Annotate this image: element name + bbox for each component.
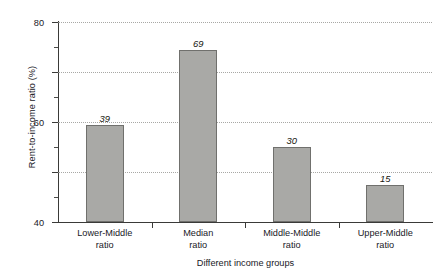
x-category-label-line2: ratio (339, 240, 433, 252)
y-axis-title: Rent-to-income ratio (%) (27, 22, 37, 212)
bar: 30 (273, 147, 311, 222)
bar-value-label: 15 (380, 173, 390, 184)
y-tick-20: 20 (52, 172, 58, 173)
x-category-label-line1: Middle-Middle (263, 228, 320, 238)
y-tick-label-60: 60 (34, 118, 44, 128)
x-category-label-line1: Upper-Middle (358, 228, 413, 238)
x-category-label-line1: Median (183, 228, 213, 238)
y-minor-tick-70 (54, 47, 58, 48)
bar: 69 (179, 50, 217, 223)
bar-value-label: 39 (100, 113, 110, 124)
gridline-y-60 (58, 72, 432, 73)
bar-value-label: 30 (287, 135, 297, 146)
y-tick-label-80: 80 (34, 18, 44, 28)
bar: 15 (366, 185, 404, 223)
y-tick-80: 80 (52, 22, 58, 23)
x-category-label: Medianratio (152, 228, 246, 251)
x-category-label-line2: ratio (245, 240, 339, 252)
x-category-label: Lower-Middleratio (58, 228, 152, 251)
x-axis-title: Different income groups (58, 258, 433, 268)
x-category-label-line2: ratio (58, 240, 152, 252)
y-tick-0: 0 (52, 222, 58, 223)
y-tick-40: 40 (52, 122, 58, 123)
x-category-label-line1: Lower-Middle (77, 228, 132, 238)
x-category-label: Upper-Middleratio (339, 228, 433, 251)
x-category-label: Middle-Middleratio (245, 228, 339, 251)
gridline-y-80 (58, 22, 432, 23)
bar-value-label: 69 (193, 38, 203, 49)
plot-area: 02040608039693015 (58, 22, 432, 222)
gridline-y-40 (58, 122, 432, 123)
y-minor-tick-50 (54, 97, 58, 98)
y-minor-tick-10 (54, 197, 58, 198)
bar: 39 (86, 125, 124, 223)
x-category-label-line2: ratio (152, 240, 246, 252)
y-minor-tick-30 (54, 147, 58, 148)
bar-chart: Rent-to-income ratio (%) 020406080396930… (0, 0, 446, 280)
y-tick-label-40: 40 (34, 218, 44, 228)
y-tick-60: 60 (52, 72, 58, 73)
